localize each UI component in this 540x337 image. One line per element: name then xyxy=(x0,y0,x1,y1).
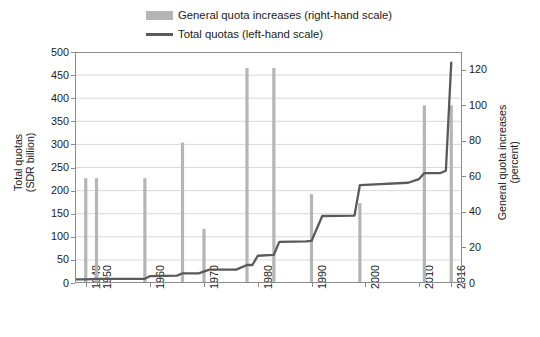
x-axis-tick-mark xyxy=(86,283,87,287)
bar xyxy=(423,105,426,283)
y-axis-right-tick-label: 60 xyxy=(469,171,503,182)
bar xyxy=(450,105,453,283)
bar xyxy=(358,203,361,283)
y-axis-left-tick-mark xyxy=(71,191,75,192)
bar xyxy=(181,143,184,283)
y-axis-left-title-line1: Total quotas xyxy=(12,134,24,191)
y-axis-left-tick-mark xyxy=(71,144,75,145)
line-swatch-icon xyxy=(140,33,178,36)
chart-canvas xyxy=(75,52,462,283)
y-axis-right-tick-mark xyxy=(462,141,466,142)
y-axis-left-tick-label: 450 xyxy=(35,70,69,81)
y-axis-left-tick-label: 400 xyxy=(35,93,69,104)
legend-label: Total quotas (left-hand scale) xyxy=(178,29,323,40)
y-axis-right-title-line1: General quota increases xyxy=(496,105,508,220)
y-axis-left-tick-label: 200 xyxy=(35,185,69,196)
y-axis-right-tick-mark xyxy=(462,105,466,106)
y-axis-left-tick-mark xyxy=(71,168,75,169)
y-axis-left-tick-mark xyxy=(71,283,75,284)
y-axis-right-tick-label: 100 xyxy=(469,100,503,111)
y-axis-left-tick-label: 0 xyxy=(35,278,69,289)
legend-label: General quota increases (right-hand scal… xyxy=(178,10,392,21)
y-axis-left-tick-label: 300 xyxy=(35,139,69,150)
y-axis-right-tick-label: 0 xyxy=(469,278,503,289)
y-axis-right-tick-mark xyxy=(462,70,466,71)
x-axis-tick-mark xyxy=(312,283,313,287)
y-axis-right-tick-mark xyxy=(462,247,466,248)
y-axis-left-title: Total quotas (SDR billion) xyxy=(12,92,37,232)
y-axis-right-tick-label: 120 xyxy=(469,64,503,75)
bar xyxy=(202,229,205,283)
bar-series-general-quota-increases xyxy=(84,68,453,283)
y-axis-right-tick-label: 80 xyxy=(469,135,503,146)
line-series-total-quotas xyxy=(75,63,451,280)
bar-swatch-icon xyxy=(140,11,178,20)
y-axis-left-tick-mark xyxy=(71,52,75,53)
x-axis-tick-mark xyxy=(204,283,205,287)
chart-legend: General quota increases (right-hand scal… xyxy=(140,6,480,44)
y-axis-right-tick-mark xyxy=(462,176,466,177)
x-axis-tick-mark xyxy=(97,283,98,287)
y-axis-left-tick-label: 250 xyxy=(35,162,69,173)
x-axis-tick-mark xyxy=(150,283,151,287)
x-axis-tick-mark xyxy=(451,283,452,287)
chart-figure: General quota increases (right-hand scal… xyxy=(0,0,540,337)
bar xyxy=(245,68,248,283)
bar xyxy=(95,178,98,283)
y-axis-right-tick-mark xyxy=(462,212,466,213)
y-axis-left-tick-mark xyxy=(71,237,75,238)
legend-item-total-quotas: Total quotas (left-hand scale) xyxy=(140,25,480,44)
y-axis-left-tick-mark xyxy=(71,75,75,76)
y-axis-right-tick-label: 20 xyxy=(469,242,503,253)
y-axis-left-tick-mark xyxy=(71,98,75,99)
y-axis-left-tick-mark xyxy=(71,214,75,215)
y-axis-right-tick-label: 40 xyxy=(469,206,503,217)
y-axis-left-tick-label: 500 xyxy=(35,47,69,58)
x-axis-tick-mark xyxy=(365,283,366,287)
line-path xyxy=(75,63,451,280)
y-axis-left-tick-mark xyxy=(71,260,75,261)
y-axis-right-tick-mark xyxy=(462,283,466,284)
x-axis-tick-mark xyxy=(419,283,420,287)
x-axis-tick-mark xyxy=(258,283,259,287)
plot-area xyxy=(75,52,462,283)
y-axis-left-tick-label: 150 xyxy=(35,208,69,219)
y-axis-left-tick-label: 100 xyxy=(35,231,69,242)
y-axis-left-tick-mark xyxy=(71,121,75,122)
y-axis-left-tick-label: 50 xyxy=(35,254,69,265)
bar xyxy=(143,178,146,283)
y-axis-left-tick-label: 350 xyxy=(35,116,69,127)
gridlines xyxy=(75,52,462,260)
y-axis-right-title-line2: (percent) xyxy=(508,141,520,183)
bar xyxy=(84,178,87,283)
legend-item-general-quota-increases: General quota increases (right-hand scal… xyxy=(140,6,480,25)
